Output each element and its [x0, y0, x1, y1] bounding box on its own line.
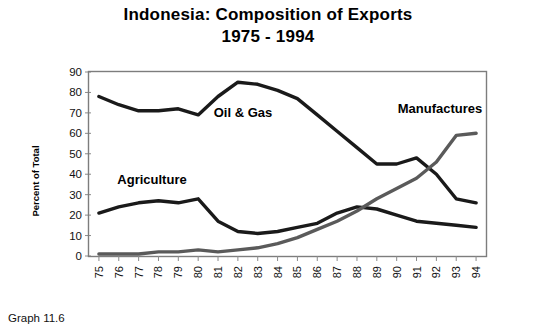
x-tick-label: 86	[311, 266, 323, 278]
y-tick-label: 70	[69, 107, 82, 119]
series-line-manufactures	[99, 133, 476, 254]
y-tick-label: 0	[76, 250, 82, 262]
figure-caption: Graph 11.6	[8, 312, 65, 324]
x-tick-label: 78	[152, 266, 164, 278]
x-tick-label: 84	[272, 266, 284, 278]
x-tick-label: 81	[212, 266, 224, 278]
y-tick-label: 40	[69, 168, 82, 180]
x-tick-label: 89	[371, 266, 383, 278]
x-tick-label: 90	[391, 266, 403, 278]
y-axis-tick-labels: 0102030405060708090	[69, 66, 82, 262]
oil-and-gas-label: Oil & Gas	[214, 105, 273, 120]
x-tick-label: 87	[331, 266, 343, 278]
x-tick-label: 85	[291, 266, 303, 278]
y-axis-title: Percent of Total	[30, 145, 41, 216]
agriculture-label: Agriculture	[117, 172, 186, 187]
y-tick-label: 30	[69, 189, 82, 201]
series-annotations: Oil & GasManufacturesAgriculture	[117, 101, 482, 187]
series-line-agriculture	[99, 199, 476, 234]
y-tick-label: 60	[69, 127, 82, 139]
x-tick-label: 92	[430, 266, 442, 278]
x-tick-label: 80	[192, 266, 204, 278]
x-tick-label: 93	[450, 266, 462, 278]
x-tick-label: 91	[411, 266, 423, 278]
y-tick-label: 90	[69, 66, 82, 78]
y-tick-label: 50	[69, 148, 82, 160]
x-tick-label: 76	[113, 266, 125, 278]
x-axis-tick-labels: 7576777879808182838485868788899091929394	[93, 266, 482, 278]
y-tick-label: 10	[69, 230, 82, 242]
x-tick-label: 83	[252, 266, 264, 278]
x-tick-label: 79	[172, 266, 184, 278]
x-tick-label: 82	[232, 266, 244, 278]
y-tick-label: 80	[69, 86, 82, 98]
y-tick-label: 20	[69, 209, 82, 221]
manufactures-label: Manufactures	[398, 101, 483, 116]
x-tick-label: 77	[133, 266, 145, 278]
chart-page: Indonesia: Composition of Exports 1975 -…	[0, 0, 536, 332]
x-tick-label: 75	[93, 266, 105, 278]
x-tick-label: 94	[470, 266, 482, 278]
x-tick-label: 88	[351, 266, 363, 278]
exports-line-chart: 0102030405060708090 Percent of Total 757…	[0, 0, 536, 332]
svg-text:Percent of Total: Percent of Total	[30, 145, 41, 216]
